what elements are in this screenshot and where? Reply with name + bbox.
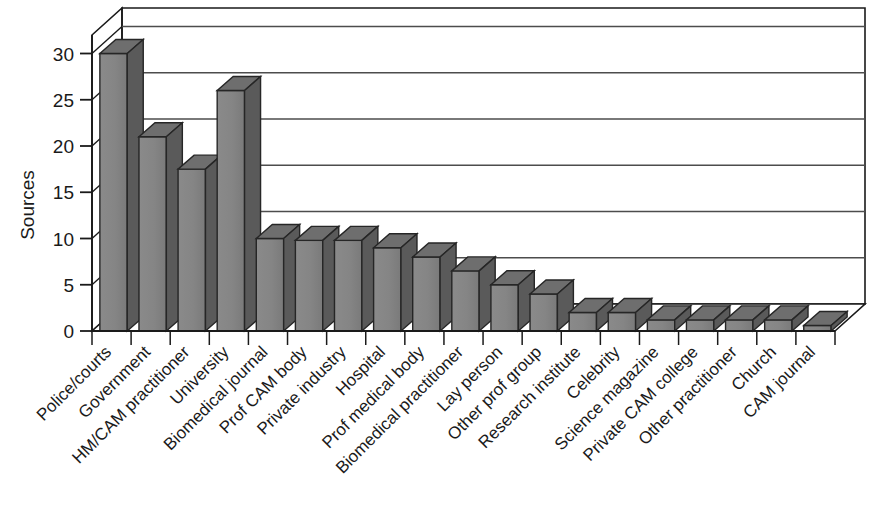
bar xyxy=(178,155,221,331)
y-tick-label: 20 xyxy=(53,136,74,157)
chart-canvas: 051015202530 Police/courtsGovernmentHM/C… xyxy=(0,0,895,529)
y-axis-title-text: Sources xyxy=(17,170,38,240)
bar xyxy=(452,257,495,331)
bar xyxy=(217,77,260,332)
y-tick-label: 15 xyxy=(53,182,74,203)
y-tick-label: 0 xyxy=(63,321,74,342)
x-axis: Police/courtsGovernmentHM/CAM practition… xyxy=(33,331,835,477)
bar xyxy=(256,225,299,332)
y-tick-label: 10 xyxy=(53,229,74,250)
y-axis-title: Sources xyxy=(17,170,38,240)
bar xyxy=(295,226,338,331)
bar xyxy=(530,280,573,331)
bar xyxy=(334,226,377,331)
y-tick-label: 30 xyxy=(53,44,74,65)
bar xyxy=(491,271,534,331)
bar xyxy=(374,234,417,331)
y-tick-label: 5 xyxy=(63,275,74,296)
y-axis: 051015202530 xyxy=(53,35,92,342)
bar xyxy=(100,40,143,332)
bar xyxy=(139,123,182,331)
bar xyxy=(413,243,456,331)
bar-chart-figure: 051015202530 Police/courtsGovernmentHM/C… xyxy=(0,0,895,529)
y-tick-label: 25 xyxy=(53,90,74,111)
